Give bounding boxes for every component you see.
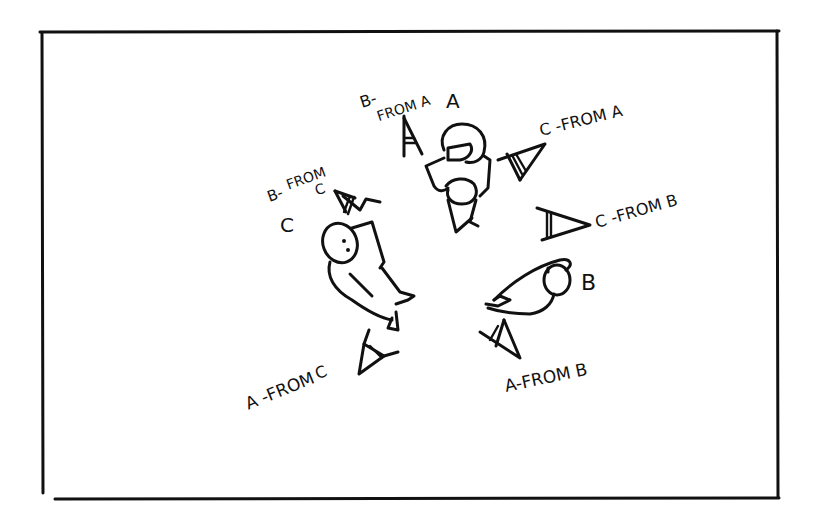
camera-c-from-a-icon	[498, 144, 545, 180]
character-a-figure	[426, 124, 490, 232]
svg-text:A -FROM: A -FROM	[242, 368, 317, 414]
svg-text:C: C	[312, 361, 329, 383]
sketch-canvas: A C B B- FROM A	[0, 0, 818, 527]
camera-a-from-c-icon	[359, 330, 398, 374]
svg-text:B-: B-	[265, 184, 286, 206]
svg-text:C: C	[313, 180, 328, 198]
camera-a-from-b-icon	[480, 320, 520, 358]
diagram-svg: A C B B- FROM A	[0, 0, 818, 527]
camera-label-c-from-b: C -FROM B	[593, 190, 680, 232]
camera-b-from-c-icon	[335, 191, 380, 214]
character-a-label: A	[446, 89, 460, 113]
camera-label-b-from-a: B- FROM A	[357, 73, 432, 128]
character-c-label: C	[280, 213, 294, 237]
character-b-figure	[486, 260, 570, 314]
camera-label-a-from-b: A-FROM B	[503, 359, 589, 396]
camera-label-c-from-a: C -FROM A	[537, 101, 624, 140]
camera-label-b-from-c: B- FROM C	[263, 164, 333, 215]
character-b-label: B	[581, 270, 596, 295]
character-c-figure	[317, 218, 414, 330]
camera-b-from-a-icon	[404, 116, 422, 156]
camera-c-from-b-icon	[537, 208, 590, 240]
camera-label-a-from-c: A -FROM C	[242, 361, 331, 413]
